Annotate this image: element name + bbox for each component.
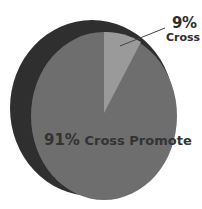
slice-label-cross-promote-percent: 91% — [44, 131, 80, 149]
slice-label-cross-promote: 91% Cross Promote — [44, 131, 192, 149]
slice-label-cross-percent: 9% — [172, 14, 196, 32]
slice-label-cross-promote-name: Cross Promote — [84, 133, 191, 148]
slice-label-cross-name: Cross — [166, 31, 200, 44]
